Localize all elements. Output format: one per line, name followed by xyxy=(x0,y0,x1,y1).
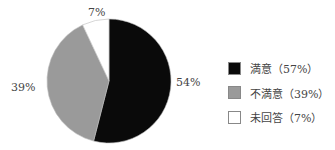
pie-chart xyxy=(0,0,200,150)
slice-label-no-answer: 7% xyxy=(88,6,105,19)
legend-swatch-white xyxy=(228,111,241,124)
slice-label-satisfied: 54% xyxy=(176,76,200,89)
legend-swatch-gray xyxy=(228,86,241,99)
slice-label-dissatisfied: 39% xyxy=(11,81,35,94)
legend-item-no-answer: 未回答（7%） xyxy=(228,105,329,130)
legend-item-dissatisfied: 不満意（39%） xyxy=(228,81,329,106)
legend-label: 不満意（39%） xyxy=(250,85,329,101)
legend-label: 未回答（7%） xyxy=(250,109,322,125)
legend-label: 満意（57%） xyxy=(250,60,318,76)
legend-item-satisfied: 満意（57%） xyxy=(228,56,329,81)
legend: 満意（57%） 不満意（39%） 未回答（7%） xyxy=(228,56,329,130)
legend-swatch-black xyxy=(228,62,241,75)
